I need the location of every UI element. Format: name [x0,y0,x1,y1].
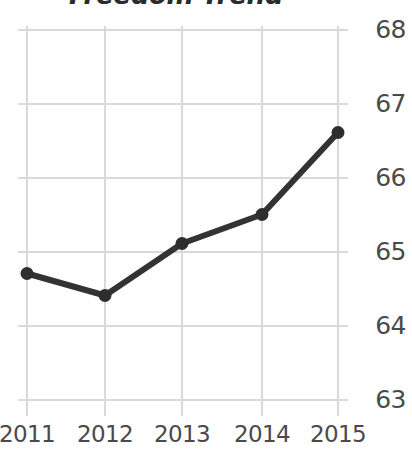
chart-title: Freedom Trend [0,0,352,10]
data-point-2012 [99,289,112,302]
x-tick-label-2014: 2014 [222,420,302,448]
x-tick-label-2015: 2015 [298,420,378,448]
data-point-2015 [332,126,345,139]
plot-area [18,30,348,400]
y-tick-label-63: 63 [346,387,406,413]
data-point-2013 [176,237,189,250]
x-tick-label-2011: 2011 [0,420,67,448]
y-tick-label-68: 68 [346,17,406,43]
x-tick-label-2012: 2012 [65,420,145,448]
y-tick-label-66: 66 [346,165,406,191]
y-tick-label-67: 67 [346,91,406,117]
x-tick-label-2013: 2013 [142,420,222,448]
chart-container: Freedom Trend [0,0,412,459]
data-series-freedom-trend [18,30,348,400]
y-tick-label-65: 65 [346,239,406,265]
y-tick-label-64: 64 [346,313,406,339]
data-point-2011 [21,267,34,280]
data-point-2014 [256,208,269,221]
series-line [27,133,338,296]
